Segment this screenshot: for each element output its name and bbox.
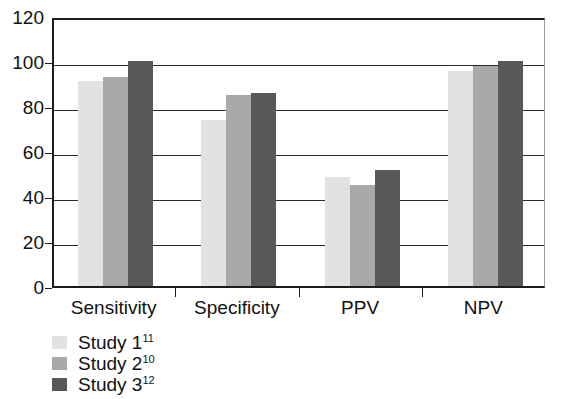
y-axis-tick-label: 60 [0, 143, 44, 162]
bar-group [448, 20, 523, 286]
bar [251, 93, 276, 287]
bar [201, 120, 226, 287]
y-axis-tick-mark [45, 243, 52, 244]
legend-item: Study 210 [52, 353, 155, 374]
y-axis-tick-label: 100 [0, 53, 44, 72]
bar [473, 66, 498, 287]
plot-area [52, 18, 545, 288]
legend-item: Study 111 [52, 332, 155, 353]
bar [128, 61, 153, 286]
bar [448, 71, 473, 286]
y-axis-tick-label: 20 [0, 233, 44, 252]
legend-reference-superscript: 12 [142, 373, 154, 385]
x-axis-tick-mark [299, 288, 300, 297]
legend-reference-superscript: 11 [142, 331, 153, 343]
x-axis-category-label: Specificity [175, 297, 298, 319]
legend-swatch-icon [52, 378, 67, 391]
y-axis-tick-mark [45, 153, 52, 154]
x-axis-category-label: NPV [422, 297, 545, 319]
legend-item: Study 312 [52, 374, 155, 395]
legend-label: Study 312 [78, 375, 155, 395]
y-axis-tick-mark [45, 63, 52, 64]
y-axis-tick-label: 40 [0, 188, 44, 207]
bar [375, 170, 400, 286]
bar [350, 185, 375, 286]
x-axis-tick-mark [422, 288, 423, 297]
x-axis-category-label: PPV [299, 297, 422, 319]
legend-swatch-icon [52, 357, 67, 370]
y-axis-tick-mark [45, 198, 52, 199]
bar [103, 77, 128, 286]
bar [325, 177, 350, 286]
legend-swatch-icon [52, 336, 67, 349]
bar-group [325, 20, 400, 286]
bar-group [201, 20, 276, 286]
chart-legend: Study 111Study 210Study 312 [52, 332, 155, 395]
y-axis-tick-label: 80 [0, 98, 44, 117]
x-axis-tick-mark [175, 288, 176, 297]
y-axis-tick-mark [45, 288, 52, 289]
bar [498, 61, 523, 286]
x-axis-category-label: Sensitivity [52, 297, 175, 319]
bar [78, 81, 103, 286]
bar [226, 95, 251, 286]
bar-group [78, 20, 153, 286]
y-axis-tick-label: 0 [0, 278, 44, 297]
legend-reference-superscript: 10 [142, 352, 154, 364]
legend-label: Study 111 [78, 333, 154, 353]
y-axis-tick-mark [45, 108, 52, 109]
y-axis-tick-label: 120 [0, 8, 44, 27]
legend-label: Study 210 [78, 354, 155, 374]
bar-chart-figure: 120100806040200 SensitivitySpecificityPP… [0, 0, 563, 399]
